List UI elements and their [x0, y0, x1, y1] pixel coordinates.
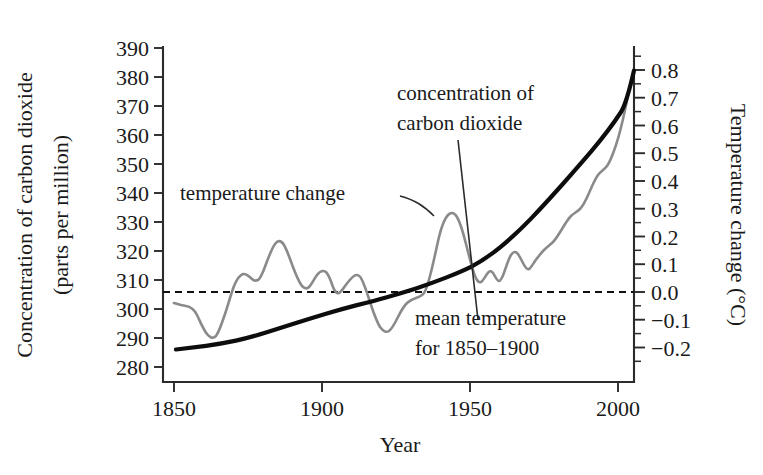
left-tick-label: 330	[116, 210, 149, 235]
right-tick-label: 0.3	[651, 197, 679, 222]
right-tick-label: 0.5	[651, 141, 679, 166]
right-axis-tick-labels: 0.8 0.7 0.6 0.5 0.4 0.3 0.2 0.1 0.0 −0.1…	[651, 58, 691, 361]
left-tick-label: 370	[116, 94, 149, 119]
left-tick-label: 310	[116, 268, 149, 293]
right-tick-label: 0.0	[651, 280, 679, 305]
temperature-change-label: temperature change	[180, 181, 345, 205]
x-tick-label: 1900	[300, 396, 344, 421]
left-axis-ticks	[154, 48, 163, 367]
x-axis-ticks	[174, 382, 618, 392]
left-axis-tick-labels: 390 380 370 360 350 340 330 320 310 300 …	[116, 36, 149, 380]
chart-svg: 390 380 370 360 350 340 330 320 310 300 …	[0, 0, 763, 475]
right-tick-label: −0.2	[651, 336, 691, 361]
mean-temperature-label-line2: for 1850–1900	[415, 336, 539, 360]
y-axis-left-title-line2: (parts per million)	[48, 135, 73, 295]
left-tick-label: 390	[116, 36, 149, 61]
right-tick-label: 0.4	[651, 169, 679, 194]
x-tick-label: 1850	[152, 396, 196, 421]
mean-temperature-annotation: mean temperature for 1850–1900	[415, 306, 566, 360]
x-axis-tick-labels: 1850 1900 1950 2000	[152, 396, 640, 421]
right-tick-label: 0.2	[651, 225, 679, 250]
co2-annotation: concentration of carbon dioxide	[397, 81, 534, 320]
right-tick-label: 0.1	[651, 252, 679, 277]
right-tick-label: 0.7	[651, 86, 679, 111]
left-tick-label: 300	[116, 297, 149, 322]
left-tick-label: 280	[116, 355, 149, 380]
co2-label-line2: carbon dioxide	[397, 111, 522, 135]
mean-temperature-label-line1: mean temperature	[415, 306, 566, 330]
x-tick-label: 2000	[596, 396, 640, 421]
temperature-change-annotation: temperature change	[180, 181, 434, 216]
left-tick-label: 290	[116, 326, 149, 351]
climate-chart-figure: 390 380 370 360 350 340 330 320 310 300 …	[0, 0, 763, 475]
co2-label-line1: concentration of	[397, 81, 534, 105]
y-axis-right-title: Temperature change (°C)	[726, 104, 751, 326]
y-axis-left-title-line1: Concentration of carbon dioxide	[12, 72, 37, 357]
left-tick-label: 320	[116, 239, 149, 264]
right-tick-label: 0.6	[651, 114, 679, 139]
left-tick-label: 380	[116, 65, 149, 90]
temperature-change-leader-line	[400, 196, 434, 216]
left-tick-label: 350	[116, 152, 149, 177]
x-axis-title: Year	[380, 432, 421, 457]
left-tick-label: 360	[116, 123, 149, 148]
x-tick-label: 1950	[448, 396, 492, 421]
left-tick-label: 340	[116, 181, 149, 206]
right-tick-label: 0.8	[651, 58, 679, 83]
right-tick-label: −0.1	[651, 308, 691, 333]
